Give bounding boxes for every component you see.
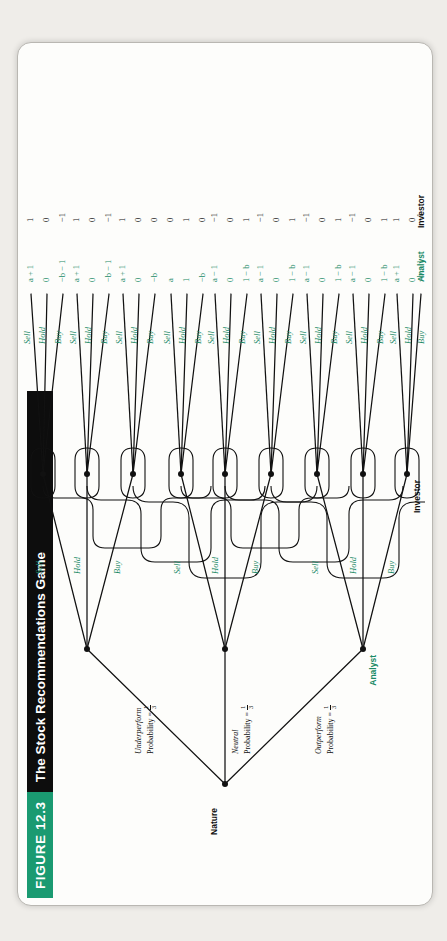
nature-branch-underperform: Underperform Probability = 13 — [135, 705, 158, 754]
terminal-payoff-analyst: −b — [150, 273, 159, 282]
terminal-payoff-investor: 0 — [150, 218, 159, 222]
figure-page: FIGURE 12.3 The Stock Recommendations Ga… — [0, 0, 447, 941]
investor-action-sell-9: Sell — [389, 331, 398, 344]
terminal-payoff-analyst: a − 1 — [302, 265, 311, 282]
investor-action-hold-6: Hold — [268, 327, 277, 344]
terminal-payoff-investor: 1 — [182, 218, 191, 222]
analyst-action-buy-2: Buy — [251, 561, 260, 574]
terminal-payoff-investor: −1 — [104, 213, 113, 222]
terminal-payoff-analyst: 0 — [134, 278, 143, 282]
terminal-payoff-investor: 1 — [288, 218, 297, 222]
nature-branch-underperform-prob: Probability = 13 — [143, 705, 157, 754]
terminal-payoff-investor: 0 — [272, 218, 281, 222]
terminal-payoff-analyst: 1 − b — [288, 264, 297, 282]
analyst-action-sell-2: Sell — [173, 561, 182, 574]
terminal-payoff-investor: 0 — [166, 218, 175, 222]
terminal-payoff-analyst: 0 — [318, 278, 327, 282]
analyst-action-hold-3: Hold — [349, 557, 358, 574]
investor-action-sell-2: Sell — [69, 331, 78, 344]
terminal-payoff-investor: 0 — [88, 218, 97, 222]
terminal-payoff-investor: 0 — [364, 218, 373, 222]
terminal-payoff-analyst: a + 1 — [26, 265, 35, 282]
analyst-action-hold-2: Hold — [211, 557, 220, 574]
investor-action-hold-5: Hold — [222, 327, 231, 344]
terminal-payoff-analyst: −b − 1 — [104, 260, 113, 282]
investor-action-sell-3: Sell — [115, 331, 124, 344]
terminal-payoff-analyst: a − 1 — [210, 265, 219, 282]
investor-action-buy-7: Buy — [330, 331, 339, 344]
investor-action-sell-5: Sell — [207, 331, 216, 344]
terminal-payoff-analyst: 1 — [182, 278, 191, 282]
investor-action-buy-4: Buy — [194, 331, 203, 344]
terminal-payoff-analyst: 1 − b — [242, 264, 251, 282]
nature-branch-outperform: Outperform Probability = 13 — [315, 705, 338, 754]
investor-action-sell-8: Sell — [345, 331, 354, 344]
terminal-payoff-investor: 1 — [72, 218, 81, 222]
investor-action-sell-6: Sell — [253, 331, 262, 344]
terminal-payoff-analyst: −b − 1 — [58, 260, 67, 282]
investor-action-buy-6: Buy — [284, 331, 293, 344]
player-label-analyst: Analyst — [369, 655, 378, 686]
terminal-payoff-analyst: 0 — [88, 278, 97, 282]
terminal-payoff-investor: 0 — [198, 218, 207, 222]
nature-branch-outperform-prob: Probability = 13 — [323, 705, 337, 754]
terminal-payoff-analyst: −b − 1 — [416, 260, 425, 282]
terminal-payoff-analyst: 0 — [42, 278, 51, 282]
terminal-payoff-investor: 0 — [42, 218, 51, 222]
investor-action-hold-7: Hold — [314, 327, 323, 344]
investor-action-hold-8: Hold — [360, 327, 369, 344]
investor-action-buy-8: Buy — [376, 331, 385, 344]
investor-action-buy-2: Buy — [100, 331, 109, 344]
nature-branch-neutral-name: Neutral — [232, 705, 240, 754]
investor-action-buy-3: Buy — [146, 331, 155, 344]
terminal-payoff-analyst: a + 1 — [118, 265, 127, 282]
nature-branch-neutral-prob: Probability = 13 — [240, 705, 254, 754]
terminal-payoff-investor: 1 — [118, 218, 127, 222]
analyst-action-hold-1: Hold — [73, 557, 82, 574]
terminal-payoff-investor: −1 — [416, 213, 425, 222]
investor-action-buy-1: Buy — [54, 331, 63, 344]
terminal-payoff-investor: −1 — [210, 213, 219, 222]
investor-action-sell-7: Sell — [299, 331, 308, 344]
terminal-payoff-investor: −1 — [348, 213, 357, 222]
terminal-payoff-analyst: a + 1 — [392, 265, 401, 282]
rotated-figure-wrapper: FIGURE 12.3 The Stock Recommendations Ga… — [25, 44, 425, 904]
analyst-action-sell-3: Sell — [311, 561, 320, 574]
player-label-nature: Nature — [210, 808, 219, 835]
investor-action-sell-1: Sell — [23, 331, 32, 344]
figure: FIGURE 12.3 The Stock Recommendations Ga… — [25, 44, 425, 904]
investor-action-hold-4: Hold — [178, 327, 187, 344]
investor-action-hold-9: Hold — [404, 327, 413, 344]
terminal-payoff-investor: 0 — [134, 218, 143, 222]
terminal-payoff-analyst: a + 1 — [72, 265, 81, 282]
terminal-payoff-analyst: 0 — [226, 278, 235, 282]
investor-action-sell-4: Sell — [163, 331, 172, 344]
terminal-payoff-analyst: 1 − b — [380, 264, 389, 282]
terminal-payoff-investor: 0 — [318, 218, 327, 222]
terminal-payoff-investor: −1 — [58, 213, 67, 222]
nature-branch-underperform-name: Underperform — [135, 705, 143, 754]
payoff-row-label-investor: Investor — [417, 195, 426, 228]
analyst-action-sell-1: Sell — [35, 561, 44, 574]
terminal-payoff-investor: 0 — [226, 218, 235, 222]
analyst-action-buy-3: Buy — [387, 561, 396, 574]
player-label-investor: Investor — [413, 480, 422, 513]
investor-action-hold-1: Hold — [38, 327, 47, 344]
terminal-payoff-analyst: −b — [198, 273, 207, 282]
analyst-action-buy-1: Buy — [113, 561, 122, 574]
terminal-payoff-investor: 1 — [26, 218, 35, 222]
game-tree-drawing — [25, 44, 425, 904]
terminal-payoff-investor: 1 — [380, 218, 389, 222]
terminal-payoff-analyst: 0 — [364, 278, 373, 282]
terminal-payoff-analyst: a − 1 — [348, 265, 357, 282]
book-page: FIGURE 12.3 The Stock Recommendations Ga… — [17, 42, 433, 906]
investor-action-buy-9: Buy — [417, 331, 426, 344]
terminal-payoff-investor: −1 — [302, 213, 311, 222]
terminal-payoff-investor: −1 — [256, 213, 265, 222]
terminal-payoff-analyst: a — [166, 278, 175, 282]
terminal-payoff-investor: 1 — [392, 218, 401, 222]
investor-action-buy-5: Buy — [238, 331, 247, 344]
terminal-payoff-analyst: 0 — [272, 278, 281, 282]
terminal-payoff-analyst: 1 − b — [334, 264, 343, 282]
investor-action-hold-2: Hold — [84, 327, 93, 344]
